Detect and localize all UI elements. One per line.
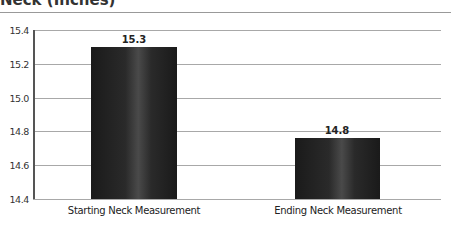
y-tick-14-8: 14.8 — [3, 126, 29, 137]
bar-label-starting: 15.3 — [104, 34, 164, 45]
bar-label-ending: 14.8 — [307, 125, 367, 136]
y-tick-14-6: 14.6 — [3, 160, 29, 171]
x-label-ending: Ending Neck Measurement — [248, 205, 428, 216]
y-tick-15-4: 15.4 — [3, 25, 29, 36]
title-divider — [0, 12, 451, 13]
x-label-starting: Starting Neck Measurement — [44, 205, 224, 216]
gridline-14-4 — [33, 199, 441, 200]
chart-title: Neck (Inches) — [0, 0, 115, 9]
y-tick-14-4: 14.4 — [3, 194, 29, 205]
bar-starting-neck — [91, 47, 177, 199]
y-tick-15-2: 15.2 — [3, 59, 29, 70]
gridline-15-4 — [33, 30, 441, 31]
y-tick-15-0: 15.0 — [3, 93, 29, 104]
bar-ending-neck — [295, 138, 380, 199]
y-axis-line — [33, 30, 35, 199]
plot-area: 15.4 15.2 15.0 14.8 14.6 14.4 15.3 14.8 — [33, 30, 441, 199]
